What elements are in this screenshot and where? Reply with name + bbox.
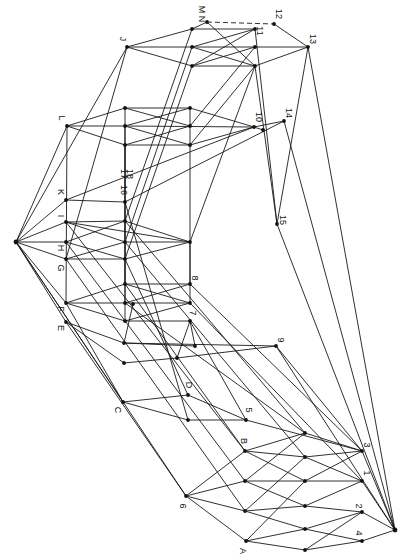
edge-r3d-r1e	[190, 66, 255, 242]
node-c6	[303, 504, 307, 508]
edge-A-c4	[246, 481, 305, 541]
node-label-H: H	[56, 245, 66, 252]
node-r1d	[190, 64, 194, 68]
node-r4g	[193, 344, 197, 348]
node-label-10: 10	[254, 112, 264, 122]
node-F	[64, 301, 68, 305]
edge-E-r4f	[66, 322, 124, 343]
edge-A-c8	[246, 541, 305, 550]
node-C	[121, 400, 125, 404]
node-label-F: F	[56, 306, 66, 312]
node-r2a	[123, 106, 127, 110]
node-label-G: G	[56, 264, 66, 271]
edge-c5-c2	[245, 457, 305, 511]
edge-L-r2e	[67, 126, 125, 145]
node-r5a	[186, 418, 190, 422]
node-1	[360, 479, 364, 483]
node-D	[186, 393, 190, 397]
node-label-3: 3	[362, 442, 372, 447]
edge-G-c5	[66, 259, 245, 511]
node-r4h	[175, 356, 179, 360]
node-r4f	[122, 341, 126, 345]
edge-r1c-r2d	[190, 47, 255, 126]
node-c1	[303, 431, 307, 435]
edge-9-bottom	[276, 346, 395, 530]
edge-r1a-r3a	[125, 29, 192, 221]
edge-r3c-r3d	[125, 242, 190, 259]
edge-2-bottom	[362, 512, 395, 530]
node-label-2: 2	[354, 503, 364, 508]
node-r2f	[188, 143, 192, 147]
edge-r3a-c1	[125, 221, 305, 433]
node-label-8: 8	[190, 275, 200, 280]
edge-A-c7	[246, 529, 305, 541]
node-r3b	[123, 240, 127, 244]
node-r2b	[188, 106, 192, 110]
node-label-E: E	[56, 325, 66, 331]
edge-c6-1	[305, 481, 362, 506]
node-r1b	[190, 45, 194, 49]
edge-6-c3	[186, 481, 245, 496]
node-r4c	[131, 302, 135, 306]
node-c8	[303, 548, 307, 552]
edge-K-10	[66, 127, 254, 200]
edge-r4h-9	[177, 346, 276, 358]
edge-B-c4	[245, 451, 305, 481]
node-2	[360, 510, 364, 514]
node-r4d	[123, 319, 127, 323]
lattice-svg: JM N121113L1014K161718IHG15FE879CD5B6A31…	[0, 0, 407, 557]
edge-13-bottom	[308, 47, 395, 530]
node-label-A: A	[238, 548, 248, 554]
edge-6-A	[186, 496, 246, 541]
node-12	[272, 22, 276, 26]
edge-K-16	[66, 200, 125, 202]
node-label-18: 18	[125, 169, 135, 179]
lattice-diagram: JM N121113L1014K161718IHG15FE879CD5B6A31…	[0, 0, 407, 557]
node-8	[188, 282, 192, 286]
node-r4e	[188, 319, 192, 323]
node-label-J: J	[118, 37, 128, 42]
node-r4b	[123, 301, 127, 305]
node-14	[282, 119, 286, 123]
node-G	[64, 257, 68, 261]
node-I	[64, 220, 68, 224]
edge-c7-2	[305, 512, 362, 529]
node-label-D: D	[184, 382, 194, 389]
node-B	[243, 449, 247, 453]
node-r4a	[123, 282, 127, 286]
edge-B-c1	[245, 433, 305, 451]
node-label-4: 4	[354, 530, 364, 535]
edge-r2f-10	[190, 127, 254, 145]
node-r3a	[123, 219, 127, 223]
node-c4	[303, 479, 307, 483]
edge-r1a-MN	[192, 22, 207, 29]
node-bottom	[393, 528, 398, 533]
node-label-5: 5	[244, 407, 254, 412]
edge-16-r5a	[125, 202, 188, 420]
node-K	[64, 198, 68, 202]
edge-r1d-r3c	[125, 66, 192, 259]
node-13	[306, 45, 310, 49]
edge-r4d-7	[125, 303, 190, 321]
label-layer: JM N121113L1014K161718IHG15FE879CD5B6A31…	[56, 6, 372, 554]
node-L	[65, 124, 69, 128]
node-7	[188, 301, 192, 305]
node-label-MN: M N	[197, 6, 207, 23]
edge-c3-c6	[245, 481, 305, 506]
edge-c6-2	[305, 506, 362, 512]
edge-r2b-10	[190, 108, 254, 127]
node-c5	[243, 509, 247, 513]
edge-r4i-r4h	[124, 358, 177, 363]
edge-layer	[16, 22, 395, 550]
node-label-9: 9	[276, 337, 286, 342]
node-5	[244, 418, 248, 422]
edge-c8-4	[305, 541, 362, 550]
edge-r4b-c1	[125, 303, 305, 433]
node-label-B: B	[239, 438, 249, 444]
edge-top-J	[16, 47, 127, 242]
node-4	[360, 539, 364, 543]
node-label-15: 15	[278, 215, 288, 225]
node-label-11: 11	[255, 26, 265, 35]
node-c2	[303, 455, 307, 459]
node-label-K: K	[56, 189, 66, 195]
